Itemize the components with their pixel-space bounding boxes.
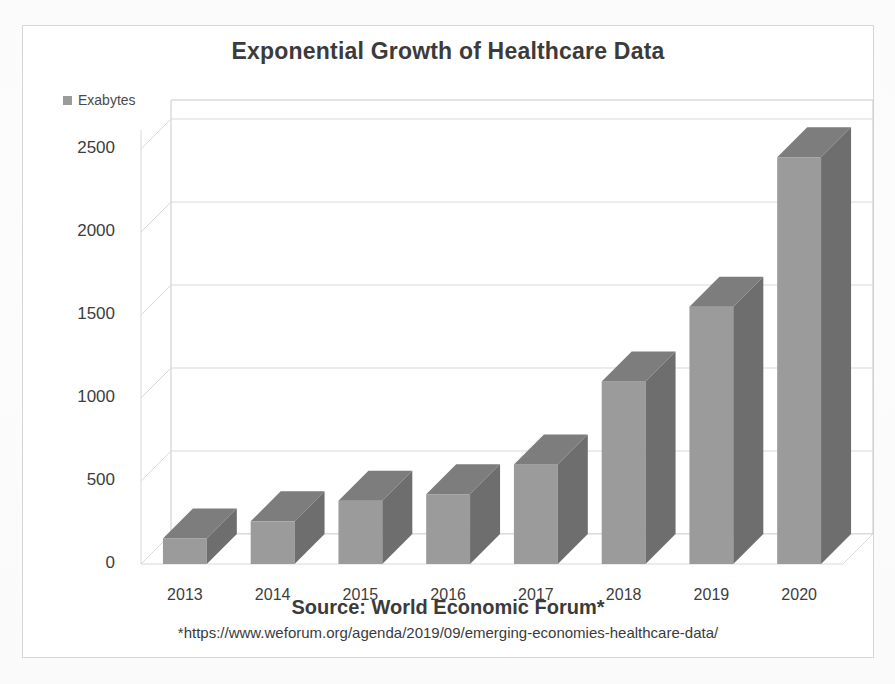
source-caption: Source: World Economic Forum* bbox=[23, 596, 873, 619]
bar-column bbox=[514, 434, 588, 564]
bar-front-face bbox=[338, 501, 382, 564]
bar-front-face bbox=[514, 464, 558, 564]
bar-side-face bbox=[733, 277, 763, 564]
bar-front-face bbox=[251, 521, 295, 564]
gridline-depth-segment bbox=[141, 285, 171, 315]
plot-area bbox=[23, 81, 875, 581]
bar-column bbox=[602, 351, 676, 564]
bar-side-face bbox=[646, 351, 676, 564]
y-axis-tick-label: 1500 bbox=[55, 304, 115, 324]
gridline-depth-segment bbox=[141, 368, 171, 398]
bar-front-face bbox=[426, 494, 470, 564]
chart-frame: Exponential Growth of Healthcare Data Ex… bbox=[22, 25, 874, 658]
gridline-depth-segment bbox=[141, 451, 171, 481]
y-axis-tick-label: 2000 bbox=[55, 221, 115, 241]
gridline-depth-segment bbox=[141, 119, 171, 149]
y-axis-tick-label: 0 bbox=[55, 553, 115, 573]
bar-column bbox=[777, 127, 851, 564]
bar-front-face bbox=[689, 307, 733, 564]
bar-front-face bbox=[777, 157, 821, 564]
chart-title: Exponential Growth of Healthcare Data bbox=[23, 38, 873, 65]
y-axis-tick-label: 2500 bbox=[55, 138, 115, 158]
chart-canvas bbox=[23, 81, 875, 581]
bar-front-face bbox=[163, 539, 207, 564]
bar-side-face bbox=[821, 127, 851, 564]
y-axis-tick-label: 1000 bbox=[55, 387, 115, 407]
bar-column bbox=[689, 277, 763, 564]
y-axis-tick-label: 500 bbox=[55, 470, 115, 490]
source-url-caption: *https://www.weforum.org/agenda/2019/09/… bbox=[23, 624, 873, 641]
gridline-depth-segment bbox=[141, 202, 171, 232]
bar-front-face bbox=[602, 381, 646, 564]
